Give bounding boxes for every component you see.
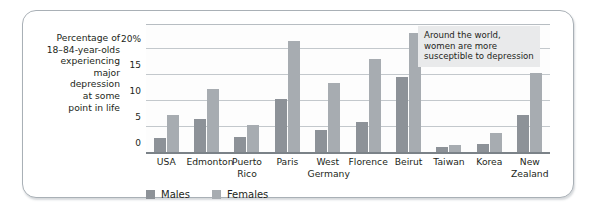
x-label-west-germany: West Germany xyxy=(308,156,348,179)
x-label-edmonton: Edmonton xyxy=(186,156,226,168)
chart-figure: Percentage of 18–84-year-olds experienci… xyxy=(0,0,599,215)
x-label-beirut: Beirut xyxy=(388,156,428,168)
bar-females[interactable] xyxy=(328,83,340,153)
x-label-new-zealand: New Zealand xyxy=(510,156,550,179)
bar-group xyxy=(227,25,267,153)
legend-item-females[interactable]: Females xyxy=(212,189,268,200)
legend-item-males[interactable]: Males xyxy=(146,189,190,200)
bar-females[interactable] xyxy=(207,89,219,153)
chart-legend: Males Females xyxy=(146,189,268,200)
y-axis-caption: Percentage of 18–84-year-olds experienci… xyxy=(28,32,120,113)
bar-group xyxy=(267,25,307,153)
legend-swatch-males-icon xyxy=(146,190,155,199)
y-tick-label-5: 5 xyxy=(135,112,141,122)
x-label-usa: USA xyxy=(146,156,186,168)
y-tick-label-15: 15 xyxy=(130,60,141,70)
bar-females[interactable] xyxy=(167,115,179,153)
bar-males[interactable] xyxy=(275,99,287,153)
bar-females[interactable] xyxy=(288,41,300,153)
x-label-paris: Paris xyxy=(267,156,307,168)
bar-males[interactable] xyxy=(396,77,408,153)
x-label-taiwan: Taiwan xyxy=(429,156,469,168)
bar-group xyxy=(348,25,388,153)
bar-males[interactable] xyxy=(194,119,206,153)
bar-males[interactable] xyxy=(315,130,327,153)
x-label-puerto-rico: Puerto Rico xyxy=(227,156,267,179)
bar-females[interactable] xyxy=(530,73,542,153)
bar-males[interactable] xyxy=(356,122,368,153)
y-tick-label-20: 20% xyxy=(121,34,141,44)
legend-swatch-females-icon xyxy=(212,190,221,199)
x-axis-line xyxy=(146,152,550,153)
y-tick-label-10: 10 xyxy=(130,86,141,96)
bar-females[interactable] xyxy=(369,59,381,153)
x-axis-labels: USAEdmontonPuerto RicoParisWest GermanyF… xyxy=(146,156,550,190)
bar-males[interactable] xyxy=(234,137,246,153)
x-label-florence: Florence xyxy=(348,156,388,168)
legend-label-males: Males xyxy=(161,189,190,200)
bar-males[interactable] xyxy=(517,115,529,154)
legend-label-females: Females xyxy=(227,189,268,200)
bar-females[interactable] xyxy=(490,133,502,153)
bar-group xyxy=(146,25,186,153)
bar-males[interactable] xyxy=(154,138,166,153)
annotation-callout: Around the world, women are more suscept… xyxy=(418,26,540,67)
y-tick-label-0: 0 xyxy=(135,138,141,148)
x-label-korea: Korea xyxy=(469,156,509,168)
bar-females[interactable] xyxy=(247,125,259,153)
bar-group xyxy=(308,25,348,153)
bar-group xyxy=(186,25,226,153)
